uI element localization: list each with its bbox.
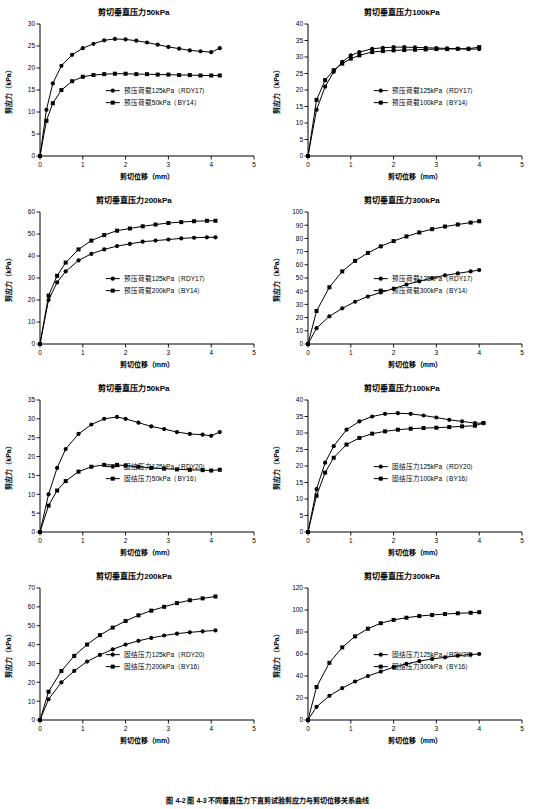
svg-text:60: 60: [296, 650, 304, 657]
svg-text:1: 1: [349, 725, 353, 732]
svg-text:10: 10: [296, 119, 304, 126]
svg-text:剪应力（kPa）: 剪应力（kPa）: [272, 66, 281, 113]
svg-text:预压荷载100kPa（BY14）: 预压荷载100kPa（BY14）: [392, 98, 473, 107]
svg-text:3: 3: [435, 161, 439, 168]
svg-text:4: 4: [477, 349, 481, 356]
svg-text:30: 30: [296, 301, 304, 308]
svg-text:40: 40: [296, 672, 304, 679]
svg-text:0: 0: [31, 528, 35, 535]
svg-text:20: 20: [28, 296, 36, 303]
svg-text:3: 3: [435, 537, 439, 544]
svg-text:固结压力300kPa（BY16）: 固结压力300kPa（BY16）: [392, 662, 473, 671]
svg-text:10: 10: [28, 491, 36, 498]
svg-text:0: 0: [38, 725, 42, 732]
svg-text:0: 0: [299, 152, 303, 159]
svg-text:1: 1: [349, 537, 353, 544]
svg-text:25: 25: [28, 434, 36, 441]
svg-text:3: 3: [167, 161, 171, 168]
svg-text:50: 50: [28, 622, 36, 629]
svg-text:2: 2: [392, 161, 396, 168]
svg-text:20: 20: [296, 462, 304, 469]
svg-text:20: 20: [28, 453, 36, 460]
svg-text:剪应力（kPa）: 剪应力（kPa）: [272, 442, 281, 489]
svg-text:15: 15: [296, 103, 304, 110]
svg-text:4: 4: [209, 725, 213, 732]
svg-text:60: 60: [28, 603, 36, 610]
svg-text:10: 10: [28, 108, 36, 115]
svg-text:20: 20: [28, 679, 36, 686]
svg-text:2: 2: [124, 537, 128, 544]
svg-text:剪切位移（mm）: 剪切位移（mm）: [388, 736, 442, 745]
svg-text:100: 100: [292, 208, 303, 215]
svg-text:0: 0: [38, 349, 42, 356]
svg-text:预压荷载300kPa（BY14）: 预压荷载300kPa（BY14）: [392, 286, 473, 295]
svg-text:0: 0: [306, 725, 310, 732]
svg-text:剪应力（kPa）: 剪应力（kPa）: [272, 254, 281, 301]
svg-text:剪切位移（mm）: 剪切位移（mm）: [120, 736, 174, 745]
svg-text:40: 40: [28, 252, 36, 259]
svg-text:2: 2: [392, 725, 396, 732]
svg-text:0: 0: [306, 161, 310, 168]
svg-text:25: 25: [296, 446, 304, 453]
svg-text:25: 25: [296, 70, 304, 77]
svg-text:预压荷载200kPa（BY14）: 预压荷载200kPa（BY14）: [124, 286, 205, 295]
svg-text:剪应力（kPa）: 剪应力（kPa）: [272, 630, 281, 677]
svg-text:2: 2: [124, 725, 128, 732]
svg-text:15: 15: [28, 472, 36, 479]
svg-text:剪切位移（mm）: 剪切位移（mm）: [388, 360, 442, 369]
svg-text:4: 4: [477, 725, 481, 732]
svg-text:0: 0: [31, 152, 35, 159]
svg-text:5: 5: [252, 725, 256, 732]
svg-text:4: 4: [477, 537, 481, 544]
svg-text:1: 1: [81, 537, 85, 544]
svg-text:30: 30: [296, 53, 304, 60]
svg-text:预压荷载125kPa（RDY17）: 预压荷载125kPa（RDY17）: [392, 274, 478, 283]
plot-area: 01234505101520253035剪切位移（mm）剪应力（kPa）固结压力…: [0, 376, 268, 564]
svg-text:10: 10: [28, 318, 36, 325]
svg-text:0: 0: [38, 161, 42, 168]
svg-text:固结压力125kPa（RDY20）: 固结压力125kPa（RDY20）: [124, 462, 210, 471]
svg-text:5: 5: [520, 537, 524, 544]
svg-text:固结压力125kPa（RDY20）: 固结压力125kPa（RDY20）: [392, 462, 478, 471]
svg-text:120: 120: [292, 584, 303, 591]
svg-text:0: 0: [306, 537, 310, 544]
svg-text:30: 30: [28, 274, 36, 281]
chart-cell: 剪切垂直压力300kPa 012345020406080100120剪切位移（m…: [268, 564, 536, 752]
plot-area: 0123450510152025303540剪切位移（mm）剪应力（kPa）固结…: [268, 376, 536, 564]
svg-text:60: 60: [28, 208, 36, 215]
svg-text:固结压力100kPa（BY16）: 固结压力100kPa（BY16）: [392, 474, 473, 483]
svg-text:1: 1: [81, 349, 85, 356]
svg-text:40: 40: [296, 20, 304, 27]
svg-text:0: 0: [299, 716, 303, 723]
svg-text:剪切位移（mm）: 剪切位移（mm）: [120, 172, 174, 181]
svg-text:剪切位移（mm）: 剪切位移（mm）: [120, 360, 174, 369]
svg-text:20: 20: [296, 86, 304, 93]
svg-text:4: 4: [209, 537, 213, 544]
svg-text:5: 5: [299, 512, 303, 519]
svg-text:40: 40: [296, 396, 304, 403]
svg-text:1: 1: [81, 161, 85, 168]
svg-text:30: 30: [28, 415, 36, 422]
svg-text:剪切位移（mm）: 剪切位移（mm）: [388, 172, 442, 181]
svg-text:固结压力125kPa（RDY20）: 固结压力125kPa（RDY20）: [392, 650, 478, 659]
svg-text:3: 3: [167, 349, 171, 356]
svg-text:剪应力（kPa）: 剪应力（kPa）: [4, 254, 13, 301]
svg-text:预压荷载125kPa（RDY17）: 预压荷载125kPa（RDY17）: [124, 86, 210, 95]
svg-text:剪应力（kPa）: 剪应力（kPa）: [4, 442, 13, 489]
svg-text:10: 10: [28, 698, 36, 705]
svg-text:0: 0: [299, 340, 303, 347]
svg-text:4: 4: [209, 161, 213, 168]
chart-grid: 剪切垂直压力50kPa 012345051015202530剪切位移（mm）剪应…: [0, 0, 536, 752]
svg-text:15: 15: [296, 479, 304, 486]
svg-text:1: 1: [349, 161, 353, 168]
svg-text:5: 5: [31, 510, 35, 517]
svg-text:2: 2: [392, 349, 396, 356]
svg-text:90: 90: [296, 222, 304, 229]
svg-text:20: 20: [296, 694, 304, 701]
chart-cell: 剪切垂直压力100kPa 0123450510152025303540剪切位移（…: [268, 376, 536, 564]
svg-text:10: 10: [296, 495, 304, 502]
svg-text:3: 3: [167, 537, 171, 544]
svg-text:40: 40: [296, 288, 304, 295]
svg-text:预压荷载125kPa（RDY17）: 预压荷载125kPa（RDY17）: [392, 86, 478, 95]
svg-text:5: 5: [520, 349, 524, 356]
